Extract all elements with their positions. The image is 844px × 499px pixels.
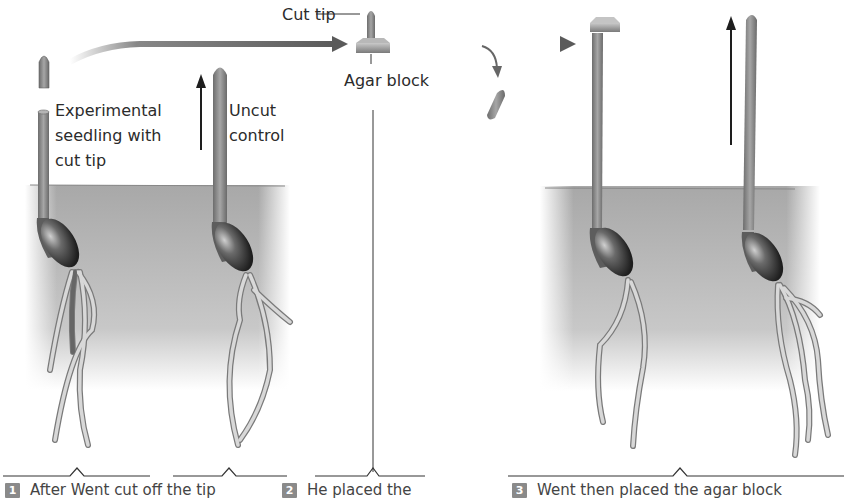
step-badge: 3 [512, 483, 527, 498]
step-1-caption: 1 After Went cut off the tip [5, 481, 216, 499]
step-text: He placed the [307, 481, 412, 499]
cut-tip-label: Cut tip [282, 2, 336, 27]
step-badge: 2 [282, 483, 297, 498]
step-text: Went then placed the agar block [537, 481, 782, 499]
transfer-arrow-2-icon [405, 36, 576, 119]
discarded-tip [487, 90, 505, 119]
growth-arrow-3-icon [726, 16, 736, 145]
step-3-caption: 3 Went then placed the agar block [512, 481, 782, 499]
transfer-arrow-icon [70, 36, 348, 62]
step-text: After Went cut off the tip [30, 481, 216, 499]
detached-tip [39, 56, 49, 88]
step-2-caption: 2 He placed the [282, 481, 412, 499]
step-badge: 1 [5, 483, 20, 498]
experimental-seedling-label: Experimental seedling with cut tip [55, 98, 162, 173]
agar-block-label: Agar block [344, 68, 429, 93]
uncut-control-label: Uncut control [229, 98, 284, 148]
bracket-lines [3, 468, 844, 476]
growth-arrow-icon [196, 74, 206, 150]
